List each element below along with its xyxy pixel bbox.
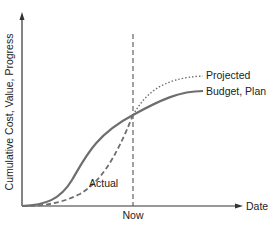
x-axis-arrow-icon (235, 204, 243, 209)
y-axis-label: Cumulative Cost, Value, Progress (3, 34, 15, 191)
actual-curve (22, 115, 133, 206)
now-label: Now (122, 209, 143, 221)
s-curve-chart: Cumulative Cost, Value, Progress Date No… (0, 0, 270, 241)
x-axis-label: Date (246, 200, 268, 212)
y-axis-arrow-icon (20, 12, 25, 20)
actual-label: Actual (89, 177, 118, 189)
budget-plan-label: Budget, Plan (206, 85, 266, 97)
projected-label: Projected (206, 69, 251, 81)
